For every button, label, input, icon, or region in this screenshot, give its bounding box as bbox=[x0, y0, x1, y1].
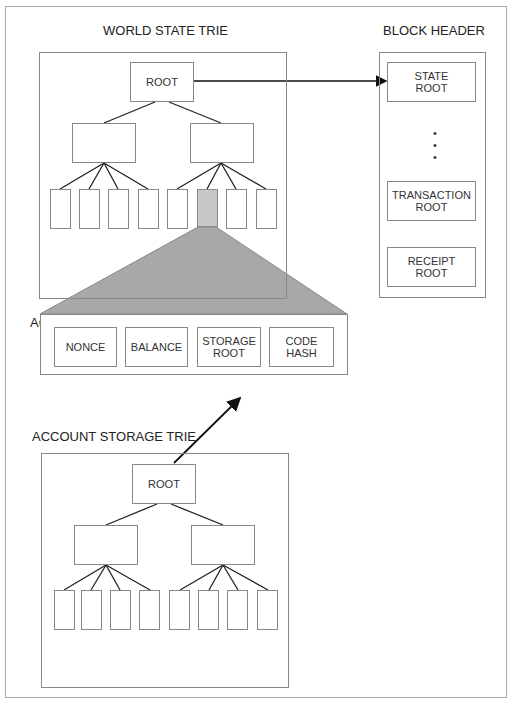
branch-node bbox=[74, 525, 138, 565]
world-state-root-node: ROOT bbox=[130, 62, 194, 102]
leaf-node bbox=[226, 189, 247, 229]
receipt-root-field: RECEIPT ROOT bbox=[387, 247, 476, 287]
branch-node bbox=[72, 123, 136, 163]
world-state-trie-title: WORLD STATE TRIE bbox=[103, 23, 228, 38]
leaf-node bbox=[169, 590, 190, 630]
block-header-title: BLOCK HEADER bbox=[383, 23, 485, 38]
storage-root-field: STORAGE ROOT bbox=[197, 327, 261, 367]
account-storage-trie-title: ACCOUNT STORAGE TRIE bbox=[32, 429, 196, 444]
balance-field: BALANCE bbox=[125, 327, 188, 367]
leaf-node bbox=[139, 590, 160, 630]
leaf-node bbox=[167, 189, 188, 229]
leaf-node bbox=[50, 189, 71, 229]
transaction-root-field: TRANSACTION ROOT bbox=[387, 181, 476, 221]
storage-root-node: ROOT bbox=[132, 464, 196, 504]
leaf-node bbox=[257, 590, 278, 630]
branch-node bbox=[191, 525, 255, 565]
leaf-node bbox=[227, 590, 248, 630]
leaf-node bbox=[54, 590, 75, 630]
leaf-node bbox=[198, 590, 219, 630]
leaf-node bbox=[138, 189, 159, 229]
leaf-node bbox=[108, 189, 129, 229]
highlighted-account-leaf bbox=[197, 189, 218, 227]
leaf-node bbox=[110, 590, 131, 630]
branch-node bbox=[190, 123, 254, 163]
leaf-node bbox=[256, 189, 277, 229]
leaf-node bbox=[79, 189, 100, 229]
state-root-field: STATE ROOT bbox=[387, 62, 476, 102]
nonce-field: NONCE bbox=[54, 327, 117, 367]
leaf-node bbox=[81, 590, 102, 630]
code-hash-field: CODE HASH bbox=[269, 327, 334, 367]
ellipsis: • • • bbox=[430, 127, 440, 163]
